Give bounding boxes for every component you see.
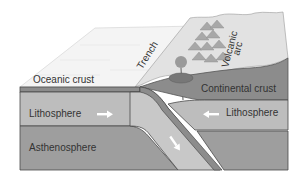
label-asthenosphere: Asthenosphere	[29, 142, 97, 153]
volcano-plume-icon	[175, 56, 187, 68]
label-lithosphere-left: Lithosphere	[29, 108, 82, 119]
oceanic-crust-layer	[20, 87, 140, 92]
subduction-diagram: Oceanic crust Trench Volcanic arc Contin…	[0, 0, 304, 182]
label-lithosphere-right: Lithosphere	[226, 107, 279, 118]
magma-chamber	[169, 73, 193, 83]
label-oceanic-crust: Oceanic crust	[33, 74, 94, 85]
label-continental-crust: Continental crust	[201, 83, 276, 94]
